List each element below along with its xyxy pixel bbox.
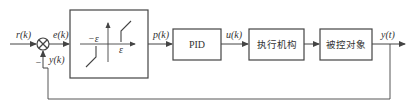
pid-label: PID xyxy=(189,39,205,50)
control-label: u(k) xyxy=(226,29,243,41)
summing-junction xyxy=(37,38,49,50)
feedback-label: y(k) xyxy=(48,54,65,66)
plant-block: 被控对象 xyxy=(320,29,372,60)
deadzone-output-label: p(k) xyxy=(152,29,170,41)
reference-input: r(k) xyxy=(10,29,36,44)
pid-block: PID xyxy=(173,29,221,60)
pos-threshold-label: ε xyxy=(119,44,123,55)
actuator-block: 执行机构 xyxy=(249,29,304,60)
reference-label: r(k) xyxy=(16,29,32,41)
plant-label: 被控对象 xyxy=(326,39,366,50)
block-diagram: r(k) e(k) − y(k) −ε ε p(k) PID u(k) 执行机构 xyxy=(0,0,417,107)
output-label: y(t) xyxy=(380,29,396,41)
minus-sign: − xyxy=(35,57,42,68)
deadzone-block: −ε ε xyxy=(70,10,148,78)
error-label: e(k) xyxy=(53,29,69,41)
neg-threshold-label: −ε xyxy=(88,33,99,44)
actuator-label: 执行机构 xyxy=(257,39,297,50)
